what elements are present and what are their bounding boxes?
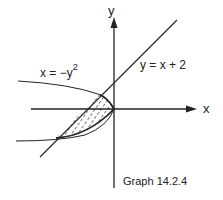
parabola-equation-base: x = −y [40,66,73,80]
y-axis-label: y [108,4,115,17]
x-axis-arrow-icon [186,106,197,113]
y-axis [111,17,118,188]
parabola-equation-label: x = −y2 [40,67,78,79]
parabola-equation-exponent: 2 [73,62,78,72]
line-equation-label: y = x + 2 [140,59,186,71]
line-y-equals-x-plus-2 [40,20,177,157]
x-axis-label: x [203,102,210,115]
y-axis-arrow-icon [111,17,118,28]
graph-canvas [0,0,223,200]
graph-caption: Graph 14.2.4 [123,176,187,187]
